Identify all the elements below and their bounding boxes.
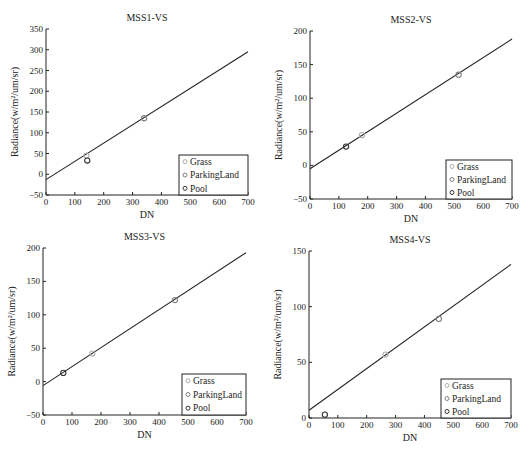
x-tick-label: 400 — [152, 417, 166, 427]
x-tick-label: 700 — [239, 417, 253, 427]
x-tick-label: 300 — [126, 197, 140, 207]
data-point-pool — [85, 158, 90, 163]
x-tick-label: 700 — [505, 201, 519, 211]
y-tick-label: 50 — [31, 343, 41, 353]
y-axis-label: Radiance(w/m²/um/sr) — [9, 67, 21, 157]
x-axis-label: DN — [140, 209, 154, 220]
y-tick-label: 300 — [30, 45, 44, 55]
x-tick-label: 200 — [97, 197, 111, 207]
x-tick-label: 500 — [447, 420, 461, 430]
y-tick-label: 350 — [30, 24, 44, 34]
y-tick-label: 100 — [294, 93, 308, 103]
y-tick-label: 0 — [36, 377, 41, 387]
chart-title: MSS1-VS — [126, 12, 167, 23]
x-tick-label: 0 — [307, 420, 312, 430]
x-tick-label: 500 — [448, 201, 462, 211]
y-tick-label: −50 — [293, 194, 308, 204]
y-tick-label: −50 — [26, 410, 41, 420]
x-tick-label: 300 — [389, 420, 403, 430]
legend-label: ParkingLand — [193, 390, 242, 400]
x-tick-label: 600 — [476, 201, 490, 211]
legend-label: ParkingLand — [457, 175, 506, 185]
x-tick-label: 600 — [475, 420, 489, 430]
y-tick-label: 0 — [39, 169, 44, 179]
chart-title: MSS3-VS — [124, 231, 165, 242]
y-axis-label: Radiance(w/m²/um/sr) — [273, 70, 285, 160]
legend-label: Grass — [193, 376, 215, 386]
subplot-3: MSS3-VS0100200300400500600700−5005010015… — [6, 231, 253, 440]
x-tick-label: 100 — [65, 417, 79, 427]
subplot-1: MSS1-VS0100200300400500600700−5005010015… — [9, 12, 255, 220]
y-tick-label: 200 — [294, 26, 308, 36]
x-tick-label: 600 — [210, 417, 224, 427]
y-tick-label: 150 — [30, 107, 44, 117]
x-tick-label: 200 — [361, 201, 375, 211]
legend-label: ParkingLand — [190, 170, 239, 180]
y-tick-label: 0 — [303, 160, 308, 170]
y-tick-label: 100 — [30, 128, 44, 138]
x-tick-label: 400 — [419, 201, 433, 211]
x-tick-label: 0 — [44, 197, 49, 207]
y-tick-label: 50 — [297, 357, 307, 367]
x-tick-label: 200 — [94, 417, 108, 427]
x-tick-label: 700 — [504, 420, 518, 430]
x-tick-label: 100 — [68, 197, 82, 207]
x-tick-label: 500 — [181, 417, 195, 427]
y-tick-label: 250 — [30, 66, 44, 76]
chart-title: MSS2-VS — [390, 14, 431, 25]
y-tick-label: 50 — [34, 149, 44, 159]
y-tick-label: 200 — [30, 86, 44, 96]
x-tick-label: 300 — [390, 201, 404, 211]
y-axis-label: Radiance(w/m²/um/sr) — [6, 286, 18, 376]
x-tick-label: 300 — [123, 417, 137, 427]
y-tick-label: 50 — [298, 127, 308, 137]
x-tick-label: 700 — [241, 197, 255, 207]
y-tick-label: 100 — [27, 310, 41, 320]
legend-label: Grass — [452, 381, 474, 391]
legend-label: Pool — [457, 188, 475, 198]
x-tick-label: 600 — [212, 197, 226, 207]
y-tick-label: 150 — [27, 276, 41, 286]
x-tick-label: 400 — [155, 197, 169, 207]
subplot-4: MSS4-VS0100200300400500600700050100150DN… — [272, 234, 518, 443]
chart-title: MSS4-VS — [389, 234, 430, 245]
x-axis-label: DN — [404, 213, 418, 224]
legend-label: Grass — [457, 162, 479, 172]
x-tick-label: 500 — [184, 197, 198, 207]
subplot-2: MSS2-VS0100200300400500600700−5005010015… — [273, 14, 519, 224]
y-tick-label: 100 — [293, 302, 307, 312]
fit-line — [43, 253, 246, 386]
y-tick-label: −50 — [29, 190, 44, 200]
y-tick-label: 150 — [294, 60, 308, 70]
legend-label: Pool — [190, 184, 208, 194]
x-tick-label: 400 — [418, 420, 432, 430]
data-point-pool — [322, 412, 327, 417]
y-axis-label: Radiance(w/m²/um/sr) — [272, 289, 284, 379]
y-tick-label: 150 — [293, 246, 307, 256]
x-tick-label: 0 — [41, 417, 46, 427]
legend-label: ParkingLand — [452, 394, 501, 404]
x-tick-label: 100 — [331, 420, 345, 430]
y-tick-label: 200 — [27, 243, 41, 253]
legend-label: Pool — [452, 407, 470, 417]
y-tick-label: 0 — [302, 413, 307, 423]
x-axis-label: DN — [403, 432, 417, 443]
legend-label: Pool — [193, 403, 211, 413]
legend-label: Grass — [190, 157, 212, 167]
x-tick-label: 100 — [332, 201, 346, 211]
x-tick-label: 0 — [308, 201, 313, 211]
x-axis-label: DN — [137, 429, 151, 440]
x-tick-label: 200 — [360, 420, 374, 430]
fit-line — [310, 39, 512, 169]
figure: MSS1-VS0100200300400500600700−5005010015… — [0, 0, 528, 456]
